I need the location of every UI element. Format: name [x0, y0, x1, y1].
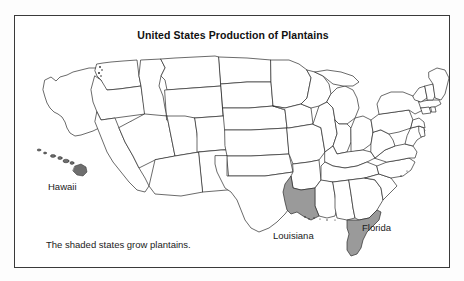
state-indiana	[333, 120, 351, 154]
figure-frame: United States Production of Plantains	[14, 15, 450, 268]
map-label-florida: Florida	[362, 222, 391, 233]
state-south-dakota	[221, 82, 273, 108]
figure-root: United States Production of Plantains	[0, 0, 464, 281]
map-label-hawaii: Hawaii	[48, 181, 77, 192]
map-label-louisiana: Louisiana	[273, 230, 314, 241]
state-wyoming	[165, 86, 223, 120]
state-north-dakota	[219, 57, 271, 84]
state-nebraska	[223, 106, 287, 130]
state-pennsylvania	[371, 110, 413, 134]
state-north-carolina	[377, 158, 415, 178]
state-missouri	[287, 124, 325, 164]
state-connecticut	[421, 107, 431, 114]
state-vermont	[413, 86, 427, 102]
state-hawaii	[37, 149, 87, 176]
state-ohio	[351, 116, 373, 152]
state-kansas	[225, 128, 289, 156]
figure-caption: The shaded states grow plantains.	[46, 239, 191, 250]
state-montana	[161, 56, 221, 90]
state-oklahoma	[227, 154, 293, 176]
state-rhode-island	[431, 107, 436, 112]
